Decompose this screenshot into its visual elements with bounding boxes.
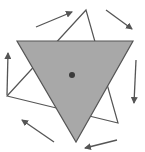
center-of-rotation-dot xyxy=(69,72,75,78)
rotation-arrow-icon xyxy=(85,140,117,148)
rotation-arrow-icon xyxy=(106,10,132,29)
rotation-arrow-icon xyxy=(22,120,54,142)
rotation-arrow-icon xyxy=(134,60,136,103)
rotation-arrow-icon xyxy=(7,53,8,95)
rotation-diagram xyxy=(0,0,145,152)
diagram-canvas xyxy=(0,0,145,152)
rotation-arrow-icon xyxy=(36,12,72,27)
